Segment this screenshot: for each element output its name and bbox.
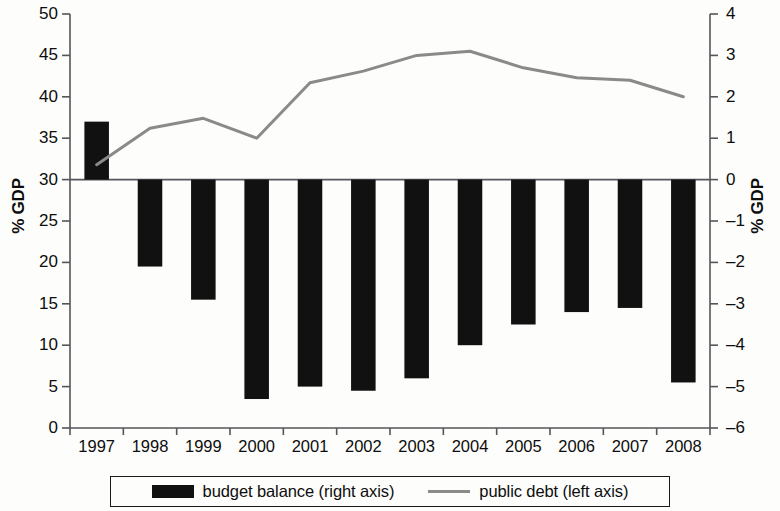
legend-label-budget-balance: budget balance (right axis): [203, 482, 395, 501]
public-debt-line: [97, 51, 684, 164]
chart-legend: budget balance (right axis) public debt …: [110, 476, 670, 507]
bar: [191, 180, 216, 300]
bar: [564, 180, 589, 312]
bar: [404, 180, 429, 379]
bar: [298, 180, 323, 387]
bar: [244, 180, 269, 399]
legend-label-public-debt: public debt (left axis): [479, 482, 628, 501]
bar: [458, 180, 483, 346]
bar-series-budget-balance: [84, 122, 695, 399]
line-series-public-debt: [97, 51, 684, 164]
bar: [671, 180, 696, 383]
legend-line-swatch-icon: [428, 490, 470, 493]
bar: [618, 180, 643, 308]
plot-area: [0, 0, 780, 511]
bar: [511, 180, 536, 325]
bar: [138, 180, 163, 267]
bar: [351, 180, 376, 391]
legend-entry-public-debt: public debt (left axis): [428, 482, 628, 501]
bar: [84, 122, 109, 180]
legend-entry-budget-balance: budget balance (right axis): [152, 482, 395, 501]
legend-bar-swatch-icon: [152, 485, 194, 498]
chart-figure: % GDP % GDP 05101520253035404550–6–5–4–3…: [0, 0, 780, 511]
